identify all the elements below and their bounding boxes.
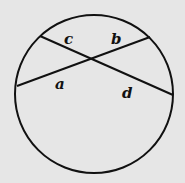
label-d: d <box>122 84 133 102</box>
chord-2 <box>17 37 150 86</box>
chord-diagram: c b a d <box>0 0 185 183</box>
label-c: c <box>64 30 73 48</box>
circle <box>15 15 173 173</box>
label-a: a <box>55 75 65 93</box>
label-b: b <box>111 30 122 48</box>
